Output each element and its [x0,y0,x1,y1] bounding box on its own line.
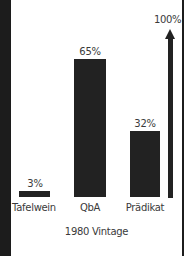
frame-right-border [182,0,184,256]
bar-value-tafelwein: 3% [15,178,55,189]
category-label-qba: QbA [62,202,118,213]
frame-left-border [0,0,11,256]
bar-tafelwein [19,191,50,197]
bar-value-pradikat: 32% [125,118,165,129]
arrow-shaft [168,38,173,198]
category-label-tafelwein: Tafelwein [6,202,62,213]
bar-qba [74,59,106,197]
chart-caption: 1980 Vintage [11,226,182,237]
bar-value-qba: 65% [70,46,110,57]
arrow-label-100: 100% [154,14,181,25]
bar-pradikat [130,131,160,197]
category-label-pradikat: Prädikat [117,202,173,213]
